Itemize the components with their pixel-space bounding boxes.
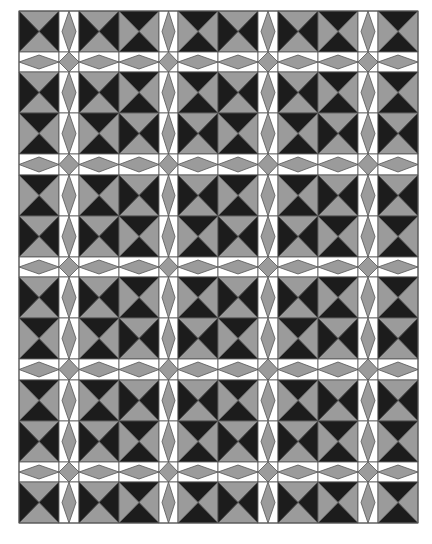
quilt-grid xyxy=(19,11,418,523)
quilt-pattern: Hourglass quilt pattern with diamond sas… xyxy=(0,0,432,544)
